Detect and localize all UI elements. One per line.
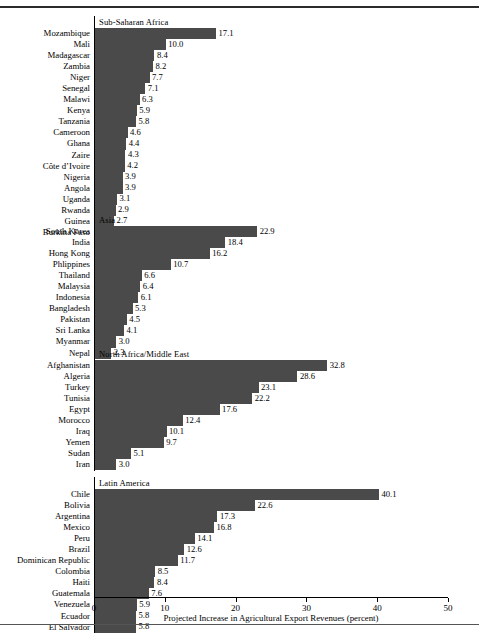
bar [95,360,327,371]
panel-rows: 22.918.416.210.76.66.46.15.34.54.13.02.3 [95,226,449,359]
bar [95,259,171,270]
category-label: Niger [0,72,90,83]
bar-value-label: 3.1 [117,193,130,205]
bar [95,138,126,149]
bar [95,50,154,61]
bar [95,599,137,610]
category-label: Brazil [0,544,90,555]
bar-row: 12.6 [95,544,449,555]
bar-row: 17.1 [95,28,449,39]
bar [95,544,184,555]
bar [95,336,116,347]
bar [95,150,125,161]
bar [95,105,137,116]
category-label: Algeria [0,371,90,382]
bar [95,39,166,50]
category-label: Ghana [0,138,90,149]
bar [95,314,127,325]
category-label: Turkey [0,382,90,393]
bar-value-label: 3.9 [123,182,136,194]
bar [95,194,117,205]
bar-value-label: 3.0 [116,336,129,348]
bar-value-label: 8.4 [154,577,167,589]
category-labels: South KoreaIndiaHong KongPhlippinesThail… [0,226,90,359]
axis-tick-label: 20 [231,603,240,613]
bar-value-label: 7.1 [145,83,158,95]
bar-row: 12.4 [95,415,449,426]
bar-value-label: 32.8 [327,360,345,372]
bar-value-label: 5.9 [137,105,150,117]
bar-value-label: 28.6 [297,371,315,383]
bar-value-label: 4.5 [127,314,140,326]
bar [95,382,259,393]
bar-row: 5.8 [95,116,449,127]
bar [95,94,140,105]
category-label: Venezuela [0,599,90,610]
category-label: Pakistan [0,314,90,325]
bar-value-label: 18.4 [225,237,243,249]
bar-row: 11.7 [95,555,449,566]
bar [95,226,257,237]
bar-row: 22.9 [95,226,449,237]
category-label: Senegal [0,83,90,94]
category-label: Rwanda [0,205,90,216]
bar-row: 18.4 [95,237,449,248]
bar-value-label: 5.3 [133,303,146,315]
bar-row: 4.1 [95,325,449,336]
bar-row: 32.8 [95,360,449,371]
bar-row: 7.1 [95,83,449,94]
panel-sub-saharan-africa: Sub-Saharan Africa17.110.08.48.27.77.16.… [94,16,449,238]
bar-value-label: 17.3 [217,511,235,523]
panel-title: Sub-Saharan Africa [95,16,449,28]
axis-tick [165,598,166,602]
category-label: Bangladesh [0,303,90,314]
category-label: Kenya [0,105,90,116]
category-label: Iraq [0,426,90,437]
bar-value-label: 22.2 [252,393,270,405]
bar-row: 40.1 [95,489,449,500]
bar [95,127,128,138]
axis-tick [306,598,307,602]
bar-row: 22.2 [95,393,449,404]
bar [95,577,154,588]
bar-row: 16.2 [95,248,449,259]
bar-value-label: 40.1 [379,489,397,501]
bar [95,566,155,577]
category-labels: ChileBoliviaArgentinaMexicoPeruBrazilDom… [0,489,90,633]
bar-value-label: 5.1 [131,448,144,460]
x-axis-label: Projected Increase in Agricultural Expor… [94,613,448,623]
bar-row: 22.6 [95,500,449,511]
category-label: Malaysia [0,281,90,292]
bar-row: 8.5 [95,566,449,577]
category-label: Colombia [0,566,90,577]
category-label: Mexico [0,522,90,533]
bar-value-label: 16.2 [210,248,228,260]
category-label: Sri Lanka [0,325,90,336]
bar [95,270,142,281]
category-label: Hong Kong [0,248,90,259]
category-label: Haiti [0,577,90,588]
category-label: Myanmar [0,336,90,347]
bar-value-label: 4.4 [126,138,139,150]
bar [95,183,123,194]
bar-row: 3.9 [95,183,449,194]
bar-row: 23.1 [95,382,449,393]
bar-row: 4.2 [95,161,449,172]
bar-row: 28.6 [95,371,449,382]
category-labels: MozambiqueMaliMadagascarZambiaNigerSeneg… [0,28,90,238]
bar-row: 5.9 [95,599,449,610]
bar-row: 4.3 [95,150,449,161]
bar-value-label: 6.1 [138,292,151,304]
bar [95,161,125,172]
bar [95,371,297,382]
panel-rows: 17.110.08.48.27.77.16.35.95.84.64.44.34.… [95,28,449,238]
bar-value-label: 5.8 [136,116,149,128]
category-label: Bolivia [0,500,90,511]
category-label: South Korea [0,226,90,237]
axis-tick-label: 0 [92,603,97,613]
panel-rows: 40.122.617.316.814.112.611.78.58.47.65.9… [95,489,449,633]
category-label: Nigeria [0,172,90,183]
bar [95,437,164,448]
bar [95,281,140,292]
category-label: Uganda [0,194,90,205]
